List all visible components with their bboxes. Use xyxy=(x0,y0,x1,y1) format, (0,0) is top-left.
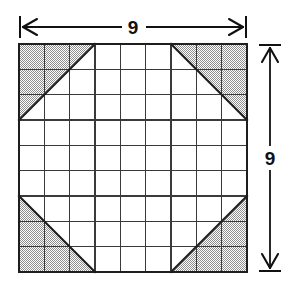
geometry-figure: 9 9 xyxy=(0,0,291,291)
dimension-top: 9 xyxy=(20,16,246,38)
dimension-right-label: 9 xyxy=(265,148,276,169)
dimension-top-label: 9 xyxy=(128,17,139,38)
grid-body xyxy=(19,44,247,272)
figure-canvas: 9 9 xyxy=(0,0,291,291)
dimension-right: 9 xyxy=(259,45,281,271)
